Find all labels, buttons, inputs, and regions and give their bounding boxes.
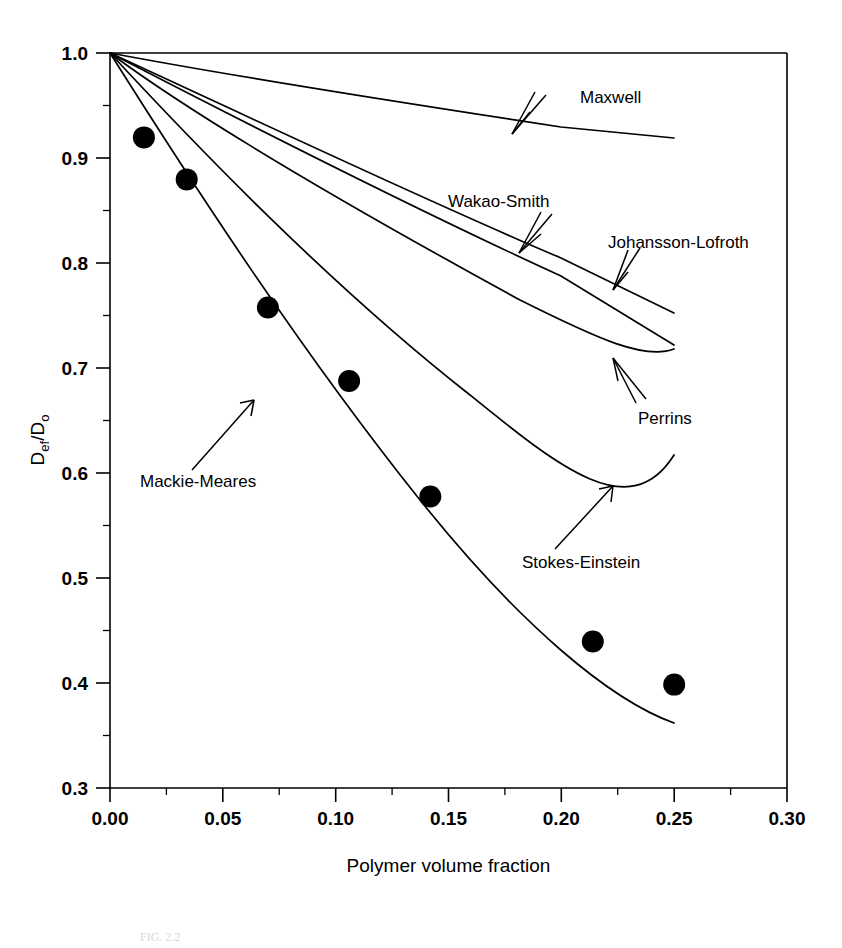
x-tick-label: 0.25 <box>656 808 693 829</box>
data-point <box>257 297 279 319</box>
y-axis-title-sub2: o <box>37 415 52 422</box>
curve-label-stokes-einstein: Stokes-Einstein <box>522 553 640 572</box>
y-tick-label: 0.8 <box>62 253 88 274</box>
y-tick-label: 1.0 <box>62 43 88 64</box>
x-tick-label: 0.20 <box>543 808 580 829</box>
data-point <box>338 370 360 392</box>
data-point <box>663 674 685 696</box>
x-tick-label: 0.30 <box>769 808 806 829</box>
x-tick-label: 0.10 <box>317 808 354 829</box>
y-tick-label: 0.6 <box>62 463 88 484</box>
x-tick-label: 0.15 <box>430 808 467 829</box>
curve-label-mackie-meares: Mackie-Meares <box>140 472 256 491</box>
x-axis-title: Polymer volume fraction <box>347 855 551 876</box>
y-axis-title-sub1: ef <box>37 440 52 451</box>
curve-label-johansson-lofroth: Johansson-Lofroth <box>608 233 749 252</box>
y-axis-title-base2: D <box>27 422 48 436</box>
curve-label-maxwell: Maxwell <box>580 88 641 107</box>
figure-caption: FIG. 2.2 <box>140 930 180 944</box>
curve-label-perrins: Perrins <box>638 409 692 428</box>
data-point <box>133 126 155 148</box>
figure-container: 1.0 0.9 0.8 0.7 0.6 0.5 0.4 0.3 0.00 0.0… <box>0 0 842 948</box>
diffusion-model-chart: 1.0 0.9 0.8 0.7 0.6 0.5 0.4 0.3 0.00 0.0… <box>0 0 842 948</box>
x-tick-label: 0.05 <box>204 808 241 829</box>
y-tick-label: 0.3 <box>62 778 88 799</box>
x-tick-label: 0.00 <box>92 808 129 829</box>
y-tick-label: 0.4 <box>62 673 89 694</box>
y-tick-label: 0.9 <box>62 148 88 169</box>
y-tick-label: 0.5 <box>62 568 89 589</box>
data-point <box>176 168 198 190</box>
y-axis-title-base1: D <box>27 452 48 466</box>
chart-background <box>0 0 842 948</box>
data-point <box>419 486 441 508</box>
data-point <box>582 631 604 653</box>
curve-label-wakao-smith: Wakao-Smith <box>448 192 549 211</box>
y-tick-label: 0.7 <box>62 358 88 379</box>
